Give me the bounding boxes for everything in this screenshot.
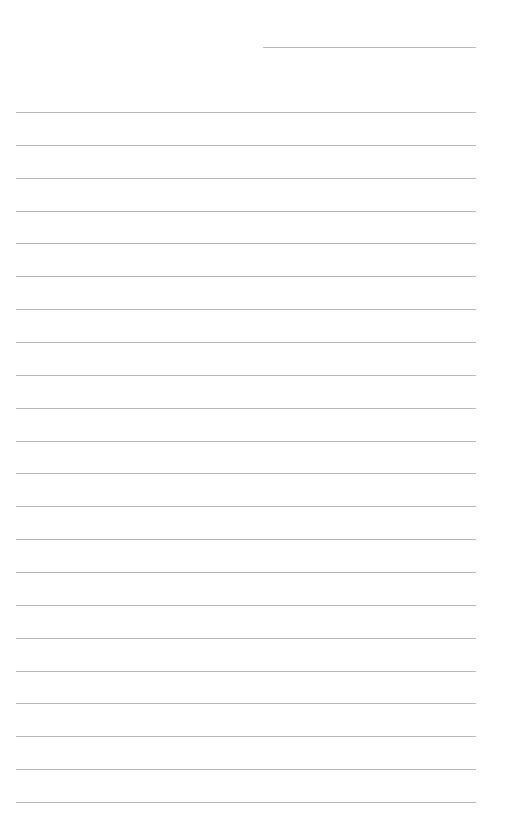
ruled-line [16,211,476,212]
ruled-line [16,276,476,277]
ruled-line [16,802,476,803]
ruled-line [16,243,476,244]
ruled-line [16,539,476,540]
ruled-line [16,309,476,310]
ruled-line [16,473,476,474]
ruled-line [16,375,476,376]
ruled-line [16,671,476,672]
ruled-line [16,441,476,442]
ruled-line [16,145,476,146]
ruled-line [16,408,476,409]
ruled-line [16,342,476,343]
ruled-line [16,506,476,507]
ruled-line [16,112,476,113]
ruled-line [16,178,476,179]
header-rule-line [263,47,476,48]
ruled-line [16,736,476,737]
ruled-line [16,769,476,770]
ruled-line [16,638,476,639]
ruled-line [16,605,476,606]
ruled-line [16,572,476,573]
ruled-line [16,703,476,704]
